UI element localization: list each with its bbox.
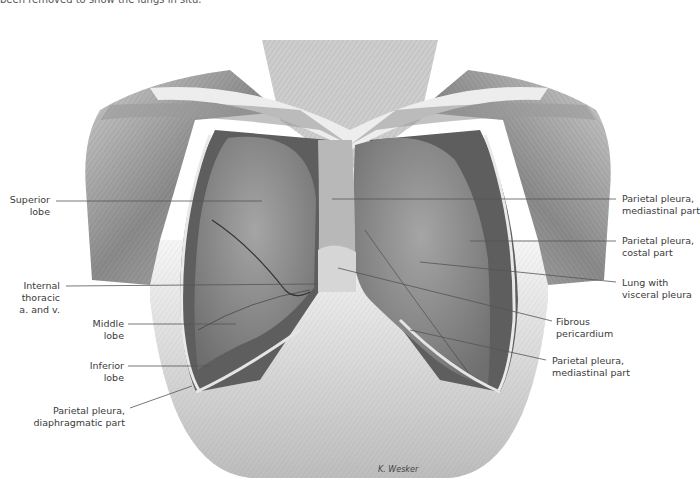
label-line: visceral pleura [622,289,692,301]
label-fibrous-pericardium: Fibrous pericardium [556,316,613,340]
label-superior-lobe: Superior lobe [10,194,50,218]
label-inferior-lobe: Inferior lobe [90,360,124,384]
label-lung-visceral-pleura: Lung with visceral pleura [622,277,692,301]
label-line: Parietal pleura, [34,405,125,417]
label-line: Parietal pleura, [622,235,694,247]
label-line: costal part [622,247,694,259]
label-line: Middle [93,318,124,330]
label-line: Fibrous [556,316,613,328]
label-middle-lobe: Middle lobe [93,318,124,342]
label-internal-thoracic: Internal thoracic a. and v. [19,280,60,316]
label-parietal-pleura-diaphragmatic: Parietal pleura, diaphragmatic part [34,405,125,429]
label-line: lobe [90,372,124,384]
label-line: Superior [10,194,50,206]
label-line: a. and v. [19,304,60,316]
label-line: Internal [19,280,60,292]
label-line: thoracic [19,292,60,304]
label-line: lobe [93,330,124,342]
label-line: Parietal pleura, [622,193,700,205]
artist-signature: K. Wesker [378,465,418,474]
label-line: Parietal pleura, [552,355,630,367]
label-line: Inferior [90,360,124,372]
label-line: diaphragmatic part [34,417,125,429]
fibrous-pericardium [318,245,356,292]
label-parietal-pleura-costal: Parietal pleura, costal part [622,235,694,259]
label-parietal-pleura-mediastinal-lower: Parietal pleura, mediastinal part [552,355,630,379]
label-line: mediastinal part [552,367,630,379]
label-parietal-pleura-mediastinal-upper: Parietal pleura, mediastinal part [622,193,700,217]
label-line: pericardium [556,328,613,340]
label-line: mediastinal part [622,205,700,217]
label-line: lobe [10,206,50,218]
label-line: Lung with [622,277,692,289]
